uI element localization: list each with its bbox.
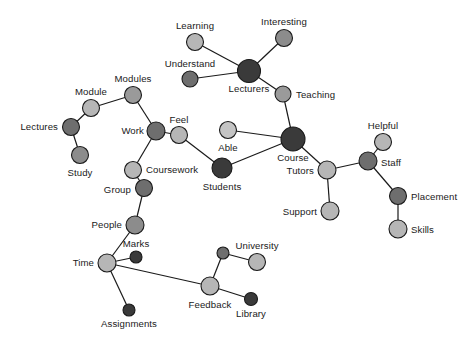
graph-node[interactable]	[171, 127, 188, 144]
graph-node[interactable]	[359, 152, 377, 170]
graph-node[interactable]	[245, 293, 258, 306]
graph-node-label: University	[235, 240, 278, 251]
graph-node[interactable]	[83, 100, 100, 117]
graph-node[interactable]	[281, 127, 305, 151]
graph-node-label: Able	[218, 142, 238, 153]
graph-node[interactable]	[130, 251, 142, 263]
graph-node-label: Lectures	[20, 121, 58, 132]
graph-node[interactable]	[275, 86, 291, 102]
graph-node-label: Modules	[115, 73, 152, 84]
graph-node[interactable]	[125, 87, 142, 104]
graph-node-label: Module	[75, 86, 107, 97]
graph-node[interactable]	[238, 60, 261, 83]
graph-node-label: Staff	[381, 157, 401, 168]
graph-node-label: Coursework	[146, 164, 198, 175]
graph-node[interactable]	[375, 134, 392, 151]
graph-node-label: Support	[283, 206, 318, 217]
graph-node-label: Marks	[123, 238, 150, 249]
graph-node-label: Feedback	[189, 299, 232, 310]
graph-node[interactable]	[217, 247, 229, 259]
graph-node[interactable]	[201, 277, 219, 295]
graph-node[interactable]	[276, 30, 293, 47]
graph-node[interactable]	[126, 216, 144, 234]
graph-node-label: Placement	[411, 191, 457, 202]
graph-node-label: Feel	[169, 114, 188, 125]
network-graph-canvas: LearningInterestingUnderstandLecturersTe…	[0, 0, 470, 339]
graph-node-label: People	[92, 219, 122, 230]
graph-node-label: Teaching	[296, 89, 335, 100]
graph-node[interactable]	[220, 122, 237, 139]
graph-node-label: Lecturers	[229, 83, 270, 94]
graph-node[interactable]	[249, 254, 266, 271]
graph-node[interactable]	[136, 180, 153, 197]
graph-node[interactable]	[125, 162, 142, 179]
labels-layer: LearningInterestingUnderstandLecturersTe…	[20, 16, 457, 329]
graph-node[interactable]	[389, 220, 407, 238]
graph-node-label: Time	[73, 257, 94, 268]
graph-node[interactable]	[390, 188, 407, 205]
graph-node[interactable]	[72, 147, 89, 164]
graph-edge	[107, 263, 210, 286]
graph-node-label: Helpful	[368, 120, 399, 131]
graph-node-label: Study	[67, 167, 92, 178]
network-graph-svg: LearningInterestingUnderstandLecturersTe…	[0, 0, 470, 339]
graph-node[interactable]	[187, 34, 204, 51]
graph-node-label: Skills	[411, 224, 434, 235]
graph-node[interactable]	[63, 119, 80, 136]
graph-node-label: Library	[236, 308, 266, 319]
graph-node[interactable]	[182, 71, 198, 87]
graph-node[interactable]	[123, 304, 135, 316]
graph-node-label: Students	[203, 181, 242, 192]
graph-node[interactable]	[147, 122, 165, 140]
graph-node[interactable]	[318, 161, 336, 179]
graph-node[interactable]	[212, 158, 232, 178]
graph-node-label: Learning	[176, 20, 214, 31]
graph-node-label: Group	[104, 184, 131, 195]
graph-node-label: Tutors	[287, 165, 315, 176]
graph-node-label: Understand	[165, 58, 216, 69]
graph-node-label: Interesting	[261, 16, 307, 27]
graph-node-label: Course	[277, 152, 309, 163]
graph-node-label: Assignments	[101, 318, 157, 329]
graph-node[interactable]	[321, 202, 339, 220]
graph-node[interactable]	[98, 254, 116, 272]
graph-node-label: Work	[121, 125, 144, 136]
